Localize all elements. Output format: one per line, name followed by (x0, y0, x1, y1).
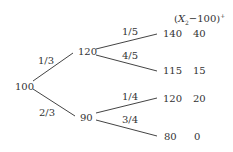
payoff-140: 40 (193, 29, 206, 39)
prob-root-down: 2/3 (39, 108, 55, 118)
payoff-115: 15 (193, 66, 206, 76)
node-90: 90 (80, 113, 93, 123)
binomial-tree-diagram: 100 1/3 2/3 120 90 1/5 4/5 1/4 3/4 140 1… (0, 0, 233, 152)
node-115: 115 (163, 66, 182, 76)
payoff-header: (X2−100)+ (174, 11, 225, 28)
node-120: 120 (78, 47, 97, 57)
prob-root-up: 1/3 (38, 56, 54, 66)
prob-120-down: 4/5 (122, 51, 138, 61)
prob-90-up: 1/4 (122, 92, 138, 102)
node-140: 140 (163, 29, 182, 39)
payoff-80: 0 (194, 132, 200, 142)
payoff-120: 20 (193, 94, 206, 104)
node-80: 80 (164, 132, 177, 142)
node-root: 100 (15, 82, 34, 92)
prob-90-down: 3/4 (122, 115, 138, 125)
node-120-leaf: 120 (163, 94, 182, 104)
prob-120-up: 1/5 (122, 27, 138, 37)
